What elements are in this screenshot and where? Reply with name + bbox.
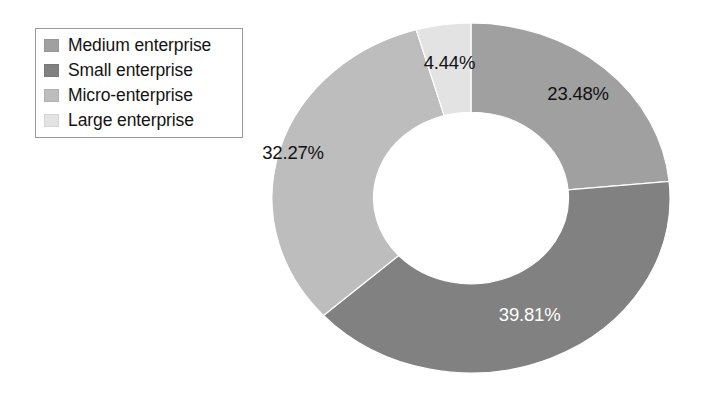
legend-label-small-enterprise: Small enterprise — [68, 61, 193, 80]
legend-swatch-small-enterprise — [44, 64, 59, 77]
donut-slice[interactable] — [323, 181, 670, 373]
donut-slice[interactable] — [471, 23, 669, 190]
donut-chart: 23.48% 39.81% 32.27% 4.44% — [266, 17, 678, 383]
legend-swatch-large-enterprise — [44, 114, 59, 127]
legend-item-medium-enterprise[interactable]: Medium enterprise — [44, 33, 236, 58]
legend-swatch-medium-enterprise — [44, 39, 59, 52]
legend-item-large-enterprise[interactable]: Large enterprise — [44, 108, 236, 133]
chart-legend: Medium enterprise Small enterprise Micro… — [35, 28, 243, 138]
legend-label-micro-enterprise: Micro-enterprise — [68, 86, 193, 105]
donut-chart-svg — [266, 17, 678, 383]
legend-label-medium-enterprise: Medium enterprise — [68, 36, 211, 55]
donut-slice-group — [272, 23, 670, 373]
legend-item-small-enterprise[interactable]: Small enterprise — [44, 58, 236, 83]
legend-item-micro-enterprise[interactable]: Micro-enterprise — [44, 83, 236, 108]
legend-label-large-enterprise: Large enterprise — [68, 111, 194, 130]
chart-page: Medium enterprise Small enterprise Micro… — [0, 0, 706, 393]
legend-swatch-micro-enterprise — [44, 89, 59, 102]
